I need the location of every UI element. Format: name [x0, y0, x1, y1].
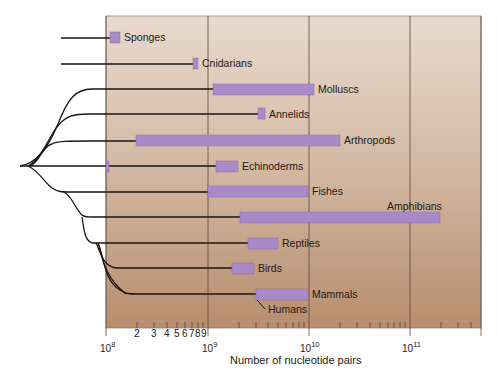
label-echinoderms: Echinoderms — [242, 160, 303, 172]
genome-size-chart: Sponges Cnidarians Molluscs Annelids Art… — [0, 0, 497, 378]
bar-fishes — [208, 186, 308, 197]
bar-amphibians — [240, 212, 440, 223]
svg-text:1011: 1011 — [402, 340, 421, 354]
svg-text:4: 4 — [164, 328, 170, 339]
svg-text:6: 6 — [182, 328, 188, 339]
label-annelids: Annelids — [269, 108, 309, 120]
bar-birds — [232, 263, 254, 274]
label-reptiles: Reptiles — [282, 237, 320, 249]
x-axis-title: Number of nucleotide pairs — [230, 354, 362, 366]
bar-cnidarians — [193, 58, 198, 69]
bar-arthropods — [136, 135, 340, 146]
svg-text:109: 109 — [202, 340, 217, 354]
label-sponges: Sponges — [124, 31, 165, 43]
bar-molluscs — [213, 84, 314, 95]
label-molluscs: Molluscs — [318, 83, 359, 95]
bar-sponges — [110, 32, 120, 43]
label-cnidarians: Cnidarians — [202, 57, 252, 69]
svg-text:1010: 1010 — [300, 340, 319, 354]
svg-text:3: 3 — [151, 328, 157, 339]
label-arthropods: Arthropods — [344, 134, 395, 146]
plot-panel — [106, 16, 481, 328]
bar-mammals — [256, 289, 308, 300]
label-birds: Birds — [258, 262, 282, 274]
svg-text:9: 9 — [201, 328, 207, 339]
bar-echinoderms-small — [106, 161, 109, 172]
label-amphibians: Amphibians — [387, 200, 442, 212]
major-tick-labels: 108 109 1010 1011 — [100, 340, 421, 354]
svg-text:2: 2 — [134, 328, 140, 339]
svg-text:108: 108 — [100, 340, 115, 354]
minor-tick-labels: 2 3 4 5 6 7 8 9 — [134, 328, 207, 339]
bar-echinoderms — [216, 161, 238, 172]
bar-reptiles — [248, 238, 278, 249]
label-fishes: Fishes — [312, 185, 343, 197]
bar-annelids — [258, 108, 265, 119]
label-mammals: Mammals — [312, 288, 358, 300]
label-humans: Humans — [268, 303, 307, 315]
svg-text:5: 5 — [174, 328, 180, 339]
